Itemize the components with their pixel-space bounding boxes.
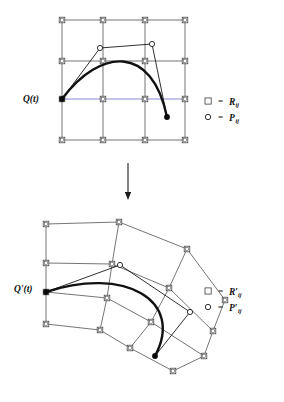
deformed-grid-row — [46, 263, 213, 331]
deformed-lattice-node — [184, 246, 190, 252]
undeformed-control-point-circle — [149, 41, 154, 46]
deformed-curve-label: Q'(t) — [14, 284, 32, 295]
deformed-lattice-node — [166, 285, 172, 291]
legend-equals-sign: = — [218, 302, 223, 312]
undeformed-lattice-node — [182, 137, 188, 143]
legend-circle-marker-icon — [205, 114, 210, 119]
legend-symbol: R′ — [228, 287, 238, 297]
deformed-lattice-node — [43, 321, 49, 327]
deformed-grid-col — [130, 249, 187, 348]
undeformed-control-point-circle — [97, 45, 102, 50]
legend-subscript: ij — [236, 101, 240, 108]
deformed-lattice-node — [104, 295, 110, 301]
deformed-lattice-panel: Q'(t) — [14, 219, 228, 374]
legend-equals-sign: = — [218, 286, 223, 296]
deformed-grid-row — [46, 324, 173, 371]
undeformed-lattice-node — [142, 96, 148, 102]
undeformed-lattice-node — [182, 96, 188, 102]
legend-subscript: ij — [236, 117, 240, 124]
undeformed-lattice-node — [100, 17, 106, 23]
legend-circle-marker-icon — [205, 304, 210, 309]
figure-canvas: Q(t) Q'(t) =Rij=Pij=R′ij=P′ij — [0, 0, 284, 402]
deformed-lattice-node — [109, 261, 115, 267]
deformed-lattice-node — [43, 260, 49, 266]
legend-symbol: P′ — [229, 303, 238, 313]
undeformed-curve-label: Q(t) — [23, 94, 39, 105]
deformed-control-polygon — [46, 265, 190, 356]
deformed-lattice-node — [97, 327, 103, 333]
deformed-curve-endpoint-dot — [152, 353, 158, 359]
undeformed-lattice-node — [59, 58, 65, 64]
deformed-lattice-node — [148, 319, 154, 325]
undeformed-bezier-curve — [62, 61, 167, 117]
deformed-lattice-node — [43, 221, 49, 227]
undeformed-lattice-panel: Q(t) — [23, 17, 188, 143]
legend-square-marker-icon — [205, 98, 211, 104]
undeformed-lattice-node — [142, 137, 148, 143]
deformed-lattice-node — [201, 353, 207, 359]
arrow-head-icon — [125, 192, 131, 200]
deformed-grid-row — [46, 222, 225, 300]
transformation-arrow — [125, 163, 131, 200]
deformed-grid-col — [100, 222, 119, 330]
figure-root: Q(t) Q'(t) =Rij=Pij=R′ij=P′ij — [0, 0, 284, 402]
legend-symbol: P — [229, 113, 235, 123]
deformed-curve-endpoint-dot — [43, 289, 49, 295]
undeformed-curve-endpoint-dot — [59, 96, 65, 102]
legend-symbol: R — [228, 97, 235, 107]
undeformed-lattice-node — [100, 96, 106, 102]
deformed-lattice-node — [127, 345, 133, 351]
undeformed-lattice-node — [142, 17, 148, 23]
undeformed-lattice-node — [182, 17, 188, 23]
deformed-lattice-node — [116, 219, 122, 225]
legend-square-marker-icon — [205, 288, 211, 294]
undeformed-lattice-node — [142, 58, 148, 64]
undeformed-lattice-node — [182, 58, 188, 64]
legend-subscript: ij — [238, 291, 242, 298]
deformed-lattice-node — [170, 368, 176, 374]
undeformed-lattice-node — [59, 137, 65, 143]
undeformed-curve-endpoint-dot — [164, 114, 170, 120]
undeformed-lattice-node — [59, 17, 65, 23]
legend-equals-sign: = — [218, 96, 223, 106]
deformed-control-point-circle — [187, 309, 192, 314]
deformed-control-point-circle — [117, 262, 122, 267]
legend-group: =Rij=Pij=R′ij=P′ij — [205, 96, 242, 314]
deformed-lattice-node — [210, 328, 216, 334]
undeformed-lattice-node — [100, 137, 106, 143]
legend-subscript: ij — [238, 307, 242, 314]
legend-equals-sign: = — [218, 112, 223, 122]
